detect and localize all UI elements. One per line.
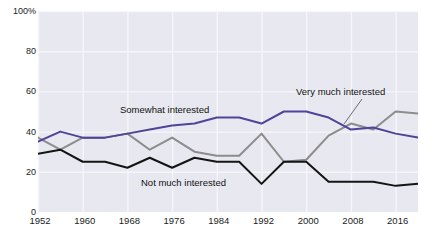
x-axis-labels: 195219601968197619841992200020082016 — [0, 0, 423, 242]
x-axis-tick-label: 1960 — [74, 215, 95, 226]
x-axis-tick-label: 2000 — [298, 215, 319, 226]
series-annotation-very-much-interested: Very much interested — [296, 86, 385, 97]
series-annotation-somewhat-interested: Somewhat interested — [120, 104, 209, 115]
x-axis-tick-label: 1984 — [208, 215, 229, 226]
series-annotation-not-much-interested: Not much interested — [141, 177, 226, 188]
x-axis-tick-label: 1976 — [164, 215, 185, 226]
chart-container: 020406080100% 19521960196819761984199220… — [0, 0, 423, 242]
x-axis-tick-label: 2016 — [387, 215, 408, 226]
x-axis-tick-label: 1968 — [119, 215, 140, 226]
x-axis-tick-label: 1952 — [29, 215, 50, 226]
x-axis-tick-label: 1992 — [253, 215, 274, 226]
x-axis-tick-label: 2008 — [342, 215, 363, 226]
